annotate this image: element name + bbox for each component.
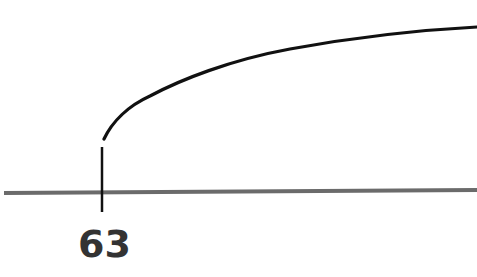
tick-label-63: 63 bbox=[78, 222, 128, 266]
diagram-canvas: 63 bbox=[0, 0, 477, 277]
rising-curve bbox=[104, 27, 477, 139]
horizontal-axis bbox=[4, 190, 477, 193]
diagram-svg bbox=[0, 0, 477, 277]
